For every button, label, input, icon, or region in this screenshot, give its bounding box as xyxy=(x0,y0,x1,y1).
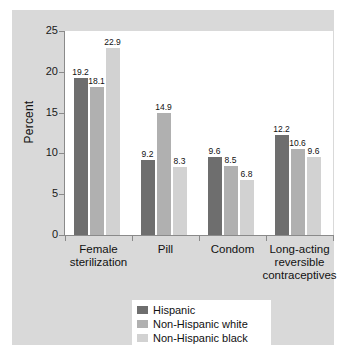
y-tick-label: 0 xyxy=(30,229,58,240)
y-tick-label-wrap: 15 xyxy=(12,107,58,118)
bar[interactable] xyxy=(74,78,88,235)
x-tick-mark xyxy=(199,236,200,241)
y-tick-label: 20 xyxy=(30,66,58,77)
bar[interactable] xyxy=(307,157,321,235)
y-tick-mark xyxy=(59,31,64,32)
y-tick-label-wrap: 0 xyxy=(12,229,58,240)
x-tick-mark xyxy=(65,236,66,241)
bar-value-label: 22.9 xyxy=(96,38,130,47)
legend-item[interactable]: Non-Hispanic white xyxy=(137,317,266,330)
y-tick-label-wrap: 5 xyxy=(12,188,58,199)
x-tick-mark xyxy=(333,236,334,241)
x-tick-mark xyxy=(266,236,267,241)
legend-swatch-icon xyxy=(137,334,148,342)
y-tick-label-wrap: 10 xyxy=(12,147,58,158)
legend-label: Non-Hispanic white xyxy=(153,318,248,330)
legend-item[interactable]: Non-Hispanic black xyxy=(137,331,266,344)
legend-item[interactable]: Hispanic xyxy=(137,303,266,316)
bar[interactable] xyxy=(106,48,120,235)
x-axis-category-line: reversible xyxy=(253,256,346,269)
bar[interactable] xyxy=(141,160,155,235)
x-tick-mark xyxy=(132,236,133,241)
bar-value-label: 14.9 xyxy=(147,103,181,112)
bar-value-label: 9.6 xyxy=(297,147,331,156)
bar-value-label: 8.3 xyxy=(163,157,197,166)
chart-figure: Percent 0510152025 19.218.122.99.214.98.… xyxy=(0,0,347,357)
y-tick-mark xyxy=(59,113,64,114)
x-axis-category-line: Long-acting xyxy=(253,243,346,256)
y-tick-label: 10 xyxy=(30,147,58,158)
bar[interactable] xyxy=(291,149,305,235)
y-tick-mark xyxy=(59,235,64,236)
legend-swatch-icon xyxy=(137,320,148,328)
bar[interactable] xyxy=(208,157,222,235)
y-tick-label: 15 xyxy=(30,107,58,118)
bar[interactable] xyxy=(240,180,254,235)
y-tick-label-wrap: 20 xyxy=(12,66,58,77)
y-tick-label-wrap: 25 xyxy=(12,25,58,36)
chart-panel: Percent 0510152025 19.218.122.99.214.98.… xyxy=(12,10,334,345)
bar[interactable] xyxy=(90,87,104,235)
y-tick-label: 25 xyxy=(30,25,58,36)
x-axis-category-label: Long-actingreversiblecontraceptives xyxy=(253,243,346,282)
x-axis-category-line: sterilization xyxy=(52,256,145,269)
bar[interactable] xyxy=(173,167,187,235)
bar-value-label: 8.5 xyxy=(214,156,248,165)
y-tick-label: 5 xyxy=(30,188,58,199)
legend-swatch-icon xyxy=(137,306,148,314)
bar[interactable] xyxy=(157,113,171,235)
y-tick-mark xyxy=(59,153,64,154)
bar-value-label: 6.8 xyxy=(230,170,264,179)
y-tick-mark xyxy=(59,194,64,195)
legend-label: Non-Hispanic black xyxy=(153,332,248,344)
x-axis-category-line: contraceptives xyxy=(253,269,346,282)
bar[interactable] xyxy=(275,135,289,235)
bar-value-label: 12.2 xyxy=(265,125,299,134)
chart-legend: HispanicNon-Hispanic whiteNon-Hispanic b… xyxy=(132,300,271,347)
legend-label: Hispanic xyxy=(153,304,195,316)
y-axis-line xyxy=(64,31,65,236)
